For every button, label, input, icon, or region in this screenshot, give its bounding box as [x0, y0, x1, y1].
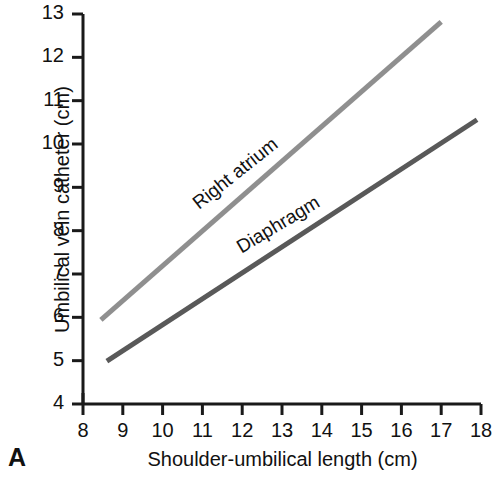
- series-line: [101, 22, 441, 320]
- y-axis-title: Umbilical vein catheter (cm): [51, 30, 74, 390]
- y-axis-tick-label: 7: [24, 261, 64, 284]
- x-axis-tick-label: 11: [182, 419, 222, 442]
- y-axis-tick-label: 11: [24, 88, 64, 111]
- x-axis-tick-label: 18: [461, 419, 492, 442]
- x-axis-tick-label: 15: [342, 419, 382, 442]
- x-axis-tick-label: 8: [63, 419, 103, 442]
- y-axis-ticks: [72, 14, 83, 404]
- figure-panel: Umbilical vein catheter (cm) Shoulder-um…: [0, 0, 492, 482]
- x-axis-tick-label: 13: [262, 419, 302, 442]
- series-line: [107, 120, 477, 361]
- y-axis-tick-label: 5: [24, 348, 64, 371]
- y-axis-tick-label: 10: [24, 131, 64, 154]
- y-axis-tick-label: 13: [24, 1, 64, 24]
- x-axis-tick-label: 10: [143, 419, 183, 442]
- x-axis-tick-label: 16: [381, 419, 421, 442]
- x-axis-title: Shoulder-umbilical length (cm): [83, 448, 482, 471]
- y-axis-tick-label: 12: [24, 44, 64, 67]
- series-lines: [101, 22, 477, 361]
- x-axis-tick-label: 14: [302, 419, 342, 442]
- panel-label: A: [8, 443, 26, 472]
- y-axis-tick-label: 9: [24, 174, 64, 197]
- y-axis-tick-label: 6: [24, 304, 64, 327]
- y-axis-tick-label: 4: [24, 391, 64, 414]
- x-axis-tick-label: 17: [421, 419, 461, 442]
- x-axis-tick-label: 12: [222, 419, 262, 442]
- y-axis-tick-label: 8: [24, 218, 64, 241]
- x-axis-tick-label: 9: [103, 419, 143, 442]
